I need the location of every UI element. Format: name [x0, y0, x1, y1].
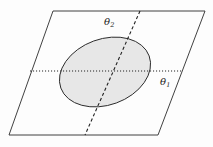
theta2-axis-label: θ2: [104, 17, 114, 27]
theta1-subscript: 1: [166, 81, 170, 89]
theta1-axis-label: θ1: [160, 77, 170, 87]
shaded-ellipse-region: [50, 25, 161, 119]
figure-canvas: θ2 θ1: [0, 0, 213, 147]
theta2-subscript: 2: [110, 21, 114, 29]
